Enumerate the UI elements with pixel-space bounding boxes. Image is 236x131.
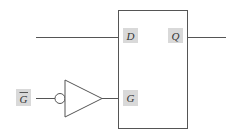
g-label-text: G — [127, 92, 135, 104]
d-label-text: D — [126, 30, 135, 42]
latch-diagram: D Q G G — [0, 0, 236, 131]
g-label: G — [123, 90, 138, 106]
inversion-bubble-icon — [55, 94, 65, 104]
q-label-text: Q — [172, 30, 180, 42]
g-bar-label-text: G — [20, 93, 28, 105]
d-label: D — [123, 28, 138, 43]
g-bar-label: G — [16, 89, 31, 106]
q-label: Q — [168, 28, 183, 43]
buffer-triangle-icon — [65, 80, 102, 117]
